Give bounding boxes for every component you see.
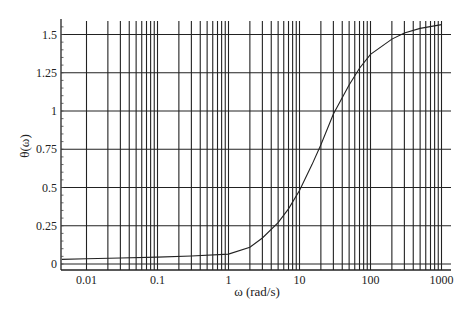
axes bbox=[61, 19, 451, 270]
y-axis-title: θ(ω) bbox=[17, 134, 32, 157]
y-tick-label: 0.25 bbox=[36, 219, 57, 233]
x-tick-label: 0.1 bbox=[150, 273, 165, 287]
y-tick-label: 1.25 bbox=[36, 66, 57, 80]
y-tick-label: 0 bbox=[51, 257, 57, 271]
x-tick-label: 1000 bbox=[430, 273, 454, 287]
x-axis-title: ω (rad/s) bbox=[234, 284, 280, 299]
y-tick-label: 1.5 bbox=[42, 28, 57, 42]
y-tick-label: 0.75 bbox=[36, 142, 57, 156]
y-tick-label: 0.5 bbox=[42, 181, 57, 195]
x-tick-label: 10 bbox=[294, 273, 306, 287]
chart: 0.010.11101001000 00.250.50.7511.251.5 ω… bbox=[0, 0, 474, 315]
y-tick-labels: 00.250.50.7511.251.5 bbox=[36, 28, 57, 272]
y-tick-label: 1 bbox=[51, 104, 57, 118]
x-tick-label: 0.01 bbox=[76, 273, 97, 287]
x-tick-label: 1 bbox=[226, 273, 232, 287]
horizontal-gridlines bbox=[61, 35, 451, 265]
data-curve bbox=[62, 25, 442, 260]
x-tick-label: 100 bbox=[362, 273, 380, 287]
vertical-gridlines bbox=[87, 21, 442, 270]
